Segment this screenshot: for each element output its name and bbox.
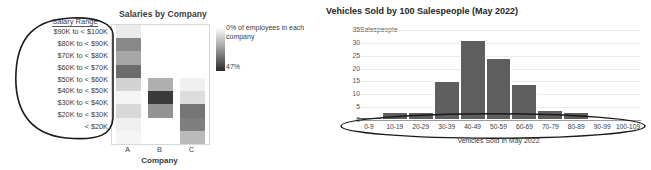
histogram-x-tick: 20-29 [408, 123, 434, 130]
histogram-bar [382, 112, 408, 120]
salaries-by-company-heatmap: Salaries by Company Salary Range $90K to… [0, 0, 320, 170]
heatmap-row-label: $20K to < $30K [18, 109, 108, 121]
heatmap-x-tick: C [179, 145, 204, 154]
heatmap-cell [148, 118, 173, 131]
vehicles-sold-histogram: Vehicles Sold by 100 Salespeople (May 20… [320, 0, 651, 170]
heatmap-cell [180, 131, 205, 144]
heatmap-column-a [116, 25, 141, 144]
histogram-x-tick: 30-39 [434, 123, 460, 130]
histogram-bar [615, 118, 641, 120]
heatmap-cell [148, 104, 173, 117]
x-axis-line [356, 120, 641, 121]
heatmap-x-tick: A [115, 145, 140, 154]
histogram-bar [434, 81, 460, 120]
heatmap-cell [116, 65, 141, 78]
histogram-y-tick: 5 [338, 103, 360, 110]
histogram-bar [589, 118, 615, 120]
heatmap-row-label: $80K to < $90K [18, 38, 108, 50]
histogram-x-tick: 50-59 [486, 123, 512, 130]
histogram-y-tick: 20 [338, 65, 360, 72]
heatmap-x-tick: B [147, 145, 172, 154]
right-chart-title: Vehicles Sold by 100 Salespeople (May 20… [326, 6, 518, 16]
heatmap-row-label: $90K to < $100K [18, 26, 108, 38]
histogram-bar [486, 58, 512, 120]
heatmap-cell [116, 51, 141, 64]
histogram-bar [408, 112, 434, 120]
gridline [356, 30, 641, 31]
histogram-bar [537, 110, 563, 120]
heatmap-cell [148, 78, 173, 91]
colorbar-gradient [216, 27, 225, 71]
histogram-bar [511, 84, 537, 120]
histogram-y-tick: 30 [338, 39, 360, 46]
histogram-y-tick: 0 [338, 116, 360, 123]
heatmap-cell [180, 104, 205, 117]
heatmap-cell [180, 51, 205, 64]
histogram-x-tick: 70-79 [537, 123, 563, 130]
heatmap-cell [116, 25, 141, 38]
heatmap-row-labels: $90K to < $100K$80K to < $90K$70K to < $… [18, 26, 108, 133]
heatmap-cell [180, 25, 205, 38]
heatmap-cell [148, 25, 173, 38]
heatmap-cell [148, 65, 173, 78]
histogram-y-tick: 25 [338, 52, 360, 59]
heatmap-cell [116, 78, 141, 91]
two-chart-screenshot: Salaries by Company Salary Range $90K to… [0, 0, 651, 170]
heatmap-x-axis-title: Company [111, 156, 208, 165]
gridline [356, 56, 641, 57]
heatmap-cell [148, 38, 173, 51]
histogram-x-tick: 100-109 [615, 123, 641, 130]
histogram-x-tick: 90-99 [589, 123, 615, 130]
histogram-x-tick: 40-49 [460, 123, 486, 130]
heatmap-cell [180, 38, 205, 51]
heatmap-column-c [180, 25, 205, 144]
heatmap-cell [180, 78, 205, 91]
heatmap-row-label: $70K to < $80K [18, 50, 108, 62]
heatmap-cell [180, 65, 205, 78]
colorbar-min-label: 0% of employees in each company [226, 24, 314, 41]
heatmap-row-label: $30K to < $40K [18, 97, 108, 109]
heatmap-cell [116, 131, 141, 144]
heatmap-cell [148, 51, 173, 64]
histogram-plot-area [356, 30, 641, 120]
histogram-y-tick: 15 [338, 77, 360, 84]
heatmap-cell [116, 118, 141, 131]
histogram-x-tick: 10-19 [382, 123, 408, 130]
heatmap-row-label: $40K to < $50K [18, 85, 108, 97]
heatmap-column-ticks: ABC [111, 145, 208, 156]
histogram-x-tick: 0-9 [356, 123, 382, 130]
heatmap-cell [148, 131, 173, 144]
histogram-x-tick: 60-69 [511, 123, 537, 130]
heatmap-cell [116, 104, 141, 117]
right-chart-x-axis-title: Vehicles Sold in May 2022 [356, 137, 641, 144]
histogram-y-tick: 35 [338, 26, 360, 33]
left-chart-title: Salaries by Company [103, 9, 223, 19]
heatmap-cell [180, 118, 205, 131]
histogram-bar [460, 40, 486, 120]
histogram-y-tick: 10 [338, 90, 360, 97]
histogram-bar [563, 112, 589, 120]
heatmap-plot-area [111, 24, 210, 145]
heatmap-cell [148, 91, 173, 104]
heatmap-row-label: $60K to < $70K [18, 62, 108, 74]
heatmap-cell [180, 91, 205, 104]
heatmap-row-label: $50K to < $60K [18, 74, 108, 86]
colorbar-max-label: 47% [226, 63, 240, 70]
heatmap-cell [116, 38, 141, 51]
heatmap-column-b [148, 25, 173, 144]
heatmap-row-label: < $20K [18, 121, 108, 133]
heatmap-cell [116, 91, 141, 104]
histogram-x-tick: 80-89 [563, 123, 589, 130]
gridline [356, 43, 641, 44]
salary-range-header: Salary Range [42, 17, 108, 26]
